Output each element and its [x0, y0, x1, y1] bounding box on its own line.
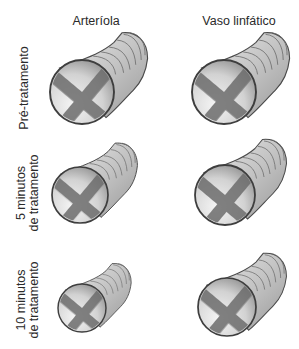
lymphatic-vessel-pre-treatment [192, 33, 290, 124]
arteriole-5-minutes [52, 143, 137, 223]
vessel-illustrations [0, 0, 299, 349]
arteriole-pre-treatment [50, 33, 148, 124]
lymphatic-vessel-10-minutes [198, 253, 286, 336]
arteriole-10-minutes [58, 263, 131, 332]
lymphatic-vessel-5-minutes [195, 139, 287, 225]
